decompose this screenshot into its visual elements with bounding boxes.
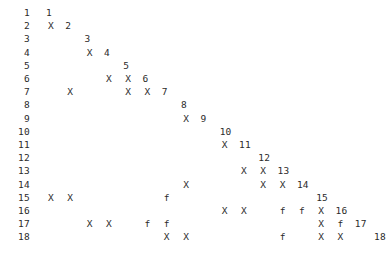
marker-x: X (180, 112, 192, 125)
matrix-row: 33 (0, 32, 391, 45)
marker-x: X (45, 191, 57, 204)
matrix-row: 16XXffX16 (0, 204, 391, 217)
marker-x: X (180, 178, 192, 191)
marker-x: X (277, 178, 289, 191)
diagonal-index-label: 2 (65, 19, 85, 32)
row-label: 4 (8, 46, 30, 59)
matrix-row: 2X2 (0, 19, 391, 32)
marker-x: X (180, 230, 192, 243)
matrix-row: 6XX6 (0, 72, 391, 85)
matrix-row: 18XXfXX18 (0, 230, 391, 243)
row-label: 11 (8, 138, 30, 151)
matrix-row: 7XXX7 (0, 85, 391, 98)
marker-f: f (335, 217, 347, 230)
diagonal-index-label: 15 (316, 191, 336, 204)
marker-x: X (84, 46, 96, 59)
diagonal-index-label: 1 (46, 6, 66, 19)
row-label: 1 (8, 6, 30, 19)
marker-x: X (219, 204, 231, 217)
matrix-row: 9X9 (0, 112, 391, 125)
diagonal-index-label: 4 (104, 46, 124, 59)
diagonal-index-label: 13 (278, 164, 298, 177)
matrix-row: 17XXffXf17 (0, 217, 391, 230)
marker-x: X (45, 19, 57, 32)
marker-x: X (335, 230, 347, 243)
matrix-row: 11 (0, 6, 391, 19)
marker-f: f (277, 204, 289, 217)
row-label: 8 (8, 98, 30, 111)
marker-x: X (238, 164, 250, 177)
marker-f: f (161, 217, 173, 230)
marker-x: X (219, 138, 231, 151)
marker-x: X (315, 204, 327, 217)
diagonal-index-label: 7 (162, 85, 182, 98)
marker-x: X (257, 178, 269, 191)
diagonal-index-label: 16 (336, 204, 356, 217)
row-label: 16 (8, 204, 30, 217)
diagonal-index-label: 9 (200, 112, 220, 125)
row-label: 9 (8, 112, 30, 125)
marker-x: X (122, 85, 134, 98)
row-label: 6 (8, 72, 30, 85)
row-label: 15 (8, 191, 30, 204)
diagonal-index-label: 12 (258, 151, 278, 164)
marker-x: X (161, 230, 173, 243)
marker-x: X (257, 164, 269, 177)
matrix-row: 14XXX14 (0, 178, 391, 191)
marker-x: X (84, 217, 96, 230)
marker-x: X (238, 204, 250, 217)
row-label: 5 (8, 59, 30, 72)
row-label: 7 (8, 85, 30, 98)
marker-f: f (277, 230, 289, 243)
matrix-row: 11X11 (0, 138, 391, 151)
marker-x: X (64, 191, 76, 204)
row-label: 2 (8, 19, 30, 32)
diagonal-index-label: 3 (85, 32, 105, 45)
matrix-row: 55 (0, 59, 391, 72)
marker-x: X (103, 217, 115, 230)
diagonal-index-label: 8 (181, 98, 201, 111)
matrix-row: 1010 (0, 125, 391, 138)
diagonal-index-label: 11 (239, 138, 259, 151)
diagonal-index-label: 18 (374, 230, 391, 243)
matrix-row: 13XX13 (0, 164, 391, 177)
diagonal-index-label: 6 (143, 72, 163, 85)
marker-f: f (296, 204, 308, 217)
marker-x: X (315, 217, 327, 230)
marker-f: f (161, 191, 173, 204)
row-label: 14 (8, 178, 30, 191)
matrix-pattern-plot: 112X2334X4556XX67XXX7889X9101011X1112121… (0, 0, 391, 258)
diagonal-index-label: 14 (297, 178, 317, 191)
diagonal-index-label: 17 (355, 217, 375, 230)
row-label: 3 (8, 32, 30, 45)
row-label: 12 (8, 151, 30, 164)
row-label: 17 (8, 217, 30, 230)
marker-x: X (64, 85, 76, 98)
matrix-row: 4X4 (0, 46, 391, 59)
marker-x: X (103, 72, 115, 85)
marker-f: f (142, 217, 154, 230)
matrix-row: 88 (0, 98, 391, 111)
marker-x: X (142, 85, 154, 98)
row-label: 18 (8, 230, 30, 243)
row-label: 13 (8, 164, 30, 177)
marker-x: X (315, 230, 327, 243)
matrix-row: 15XXf15 (0, 191, 391, 204)
diagonal-index-label: 10 (220, 125, 240, 138)
marker-x: X (122, 72, 134, 85)
matrix-row: 1212 (0, 151, 391, 164)
row-label: 10 (8, 125, 30, 138)
diagonal-index-label: 5 (123, 59, 143, 72)
